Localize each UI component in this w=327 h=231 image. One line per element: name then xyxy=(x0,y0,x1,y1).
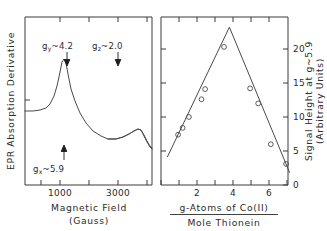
annotation-gx: gx~5.9 xyxy=(33,145,67,175)
annotation-gz: gz~2.0 xyxy=(92,41,123,66)
data-point xyxy=(187,115,192,120)
data-point xyxy=(268,142,273,147)
titration-fit-descending xyxy=(229,27,289,173)
left-panel-xticklabel-1000: 1000 xyxy=(48,188,72,198)
annotation-gy: gy~4.2 xyxy=(42,41,73,66)
left-panel-xlabel-line1: Magnetic Field xyxy=(51,202,127,213)
right-panel-xticks xyxy=(161,180,287,185)
right-panel-axes xyxy=(161,17,288,185)
right-panel-xlabel-numerator: g-Atoms of Co(II) xyxy=(179,202,268,213)
right-panel-xticklabel-6: 6 xyxy=(266,188,272,198)
left-panel-xlabel-line2: (Gauss) xyxy=(69,215,109,226)
right-panel-xticklabel-2: 2 xyxy=(194,188,200,198)
annotation-gz-arrow-head xyxy=(115,60,121,67)
annotation-gz-label: gz~2.0 xyxy=(92,41,123,52)
data-point xyxy=(203,87,208,92)
data-point xyxy=(199,97,204,102)
epr-spectrum-curve xyxy=(25,59,152,148)
right-panel-ylabel-line1: Signal Height at g~5.9 xyxy=(303,41,314,161)
figure-svg: gy~4.2 gz~2.0 gx~5.9 xyxy=(0,0,327,231)
titration-fit-ascending xyxy=(167,27,229,157)
data-point xyxy=(222,45,227,50)
right-panel-xticklabel-4: 4 xyxy=(230,188,236,198)
epr-spectrum-curve-tail xyxy=(108,129,152,149)
right-panel-yticklabel-5: 5 xyxy=(293,146,299,156)
right-panel: 2 4 6 0 5 10 15 20 g-Atoms of Co(II) Mol… xyxy=(161,17,325,228)
annotation-gx-label: gx~5.9 xyxy=(33,164,64,175)
right-panel-ylabel-line2: (Arbitrary Units) xyxy=(314,58,325,144)
right-panel-xlabel-denominator: Mole Thionein xyxy=(187,217,260,228)
annotation-gy-arrow-head xyxy=(64,60,70,67)
left-panel-top-ticks xyxy=(60,17,147,22)
titration-data-points xyxy=(176,45,289,167)
right-panel-left-yticks xyxy=(161,49,166,151)
data-point xyxy=(256,101,261,106)
left-panel-xticks xyxy=(41,180,147,185)
annotation-gy-label: gy~4.2 xyxy=(42,41,73,53)
left-panel: gy~4.2 gz~2.0 gx~5.9 xyxy=(5,17,152,226)
left-panel-ylabel: EPR Absorption Derivative xyxy=(5,32,16,170)
left-panel-xticklabel-3000: 3000 xyxy=(106,188,130,198)
right-panel-top-ticks xyxy=(179,17,269,22)
right-panel-yticklabel-0: 0 xyxy=(293,180,299,190)
figure-container: gy~4.2 gz~2.0 gx~5.9 xyxy=(0,0,327,231)
data-point xyxy=(248,86,253,91)
